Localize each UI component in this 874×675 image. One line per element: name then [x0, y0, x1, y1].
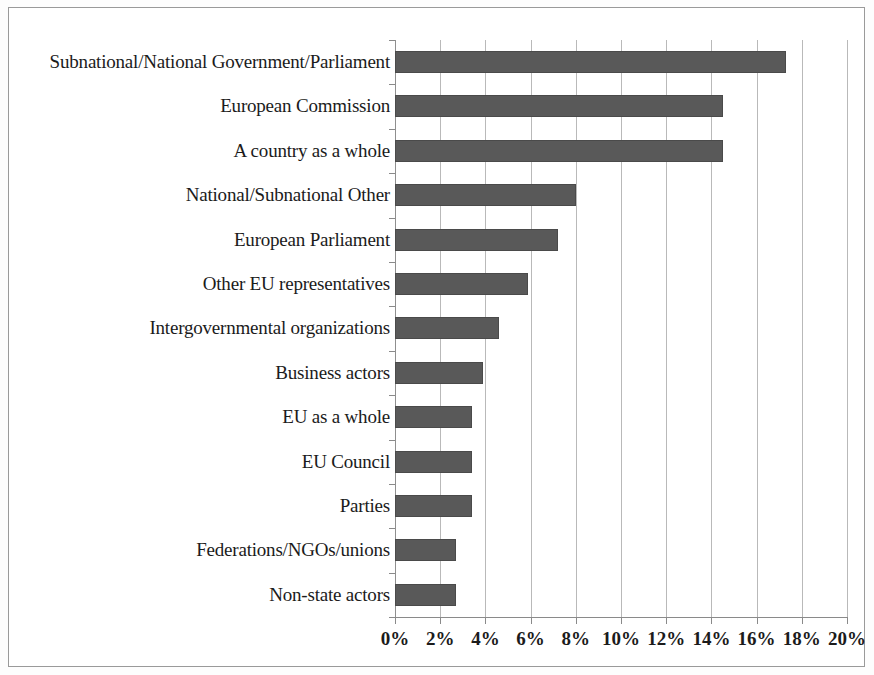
- figure-container: Subnational/National Government/Parliame…: [0, 0, 874, 675]
- x-tickmark-2%: [440, 617, 441, 624]
- bar: [395, 51, 786, 73]
- x-tickmark-14%: [711, 617, 712, 624]
- figure-frame: Subnational/National Government/Parliame…: [8, 7, 865, 667]
- category-tickmark: [389, 484, 395, 485]
- bar: [395, 539, 456, 561]
- bar: [395, 451, 472, 473]
- category-label: Intergovernmental organizations: [19, 306, 390, 350]
- bar-row: European Commission: [9, 84, 874, 128]
- bar-row: Parties: [9, 484, 874, 528]
- bar: [395, 584, 456, 606]
- category-label: Federations/NGOs/unions: [19, 528, 390, 572]
- category-tickmark: [389, 351, 395, 352]
- bar-row: A country as a whole: [9, 129, 874, 173]
- x-tickmark-10%: [621, 617, 622, 624]
- category-tickmark: [389, 262, 395, 263]
- bar-row: European Parliament: [9, 218, 874, 262]
- bar: [395, 406, 472, 428]
- category-label: Parties: [19, 484, 390, 528]
- category-tickmark: [389, 395, 395, 396]
- bar: [395, 495, 472, 517]
- bar: [395, 317, 499, 339]
- bar: [395, 362, 483, 384]
- category-tickmark: [389, 440, 395, 441]
- x-tickmark-12%: [666, 617, 667, 624]
- category-label: Business actors: [19, 351, 390, 395]
- category-tickmark: [389, 84, 395, 85]
- x-tickmark-4%: [485, 617, 486, 624]
- x-tickmark-0%: [395, 617, 396, 624]
- category-label: European Commission: [19, 84, 390, 128]
- category-tickmark: [389, 129, 395, 130]
- category-tickmark: [389, 173, 395, 174]
- bar-row: Intergovernmental organizations: [9, 306, 874, 350]
- category-tickmark: [389, 218, 395, 219]
- category-label: Subnational/National Government/Parliame…: [19, 40, 390, 84]
- x-tickmark-20%: [847, 617, 848, 624]
- category-label: EU Council: [19, 440, 390, 484]
- bar-row: Business actors: [9, 351, 874, 395]
- category-label: Other EU representatives: [19, 262, 390, 306]
- category-label: A country as a whole: [19, 129, 390, 173]
- bar: [395, 229, 558, 251]
- x-tickmark-6%: [531, 617, 532, 624]
- bar-row: National/Subnational Other: [9, 173, 874, 217]
- category-tickmark: [389, 573, 395, 574]
- category-label: Non-state actors: [19, 573, 390, 617]
- bar-row: Non-state actors: [9, 573, 874, 617]
- x-tickmark-16%: [757, 617, 758, 624]
- category-tickmark: [389, 40, 395, 41]
- category-label: National/Subnational Other: [19, 173, 390, 217]
- bar-row: Federations/NGOs/unions: [9, 528, 874, 572]
- category-label: European Parliament: [19, 218, 390, 262]
- category-tickmark: [389, 528, 395, 529]
- bar: [395, 95, 723, 117]
- bar-row: Other EU representatives: [9, 262, 874, 306]
- bar: [395, 184, 576, 206]
- category-label: EU as a whole: [19, 395, 390, 439]
- category-tickmark: [389, 306, 395, 307]
- bar-row: EU Council: [9, 440, 874, 484]
- bar: [395, 140, 723, 162]
- bar-row: Subnational/National Government/Parliame…: [9, 40, 874, 84]
- bar-row: EU as a whole: [9, 395, 874, 439]
- x-tickmark-8%: [576, 617, 577, 624]
- x-axis-label-20%: 20%: [817, 628, 874, 650]
- x-tickmark-18%: [802, 617, 803, 624]
- bar: [395, 273, 528, 295]
